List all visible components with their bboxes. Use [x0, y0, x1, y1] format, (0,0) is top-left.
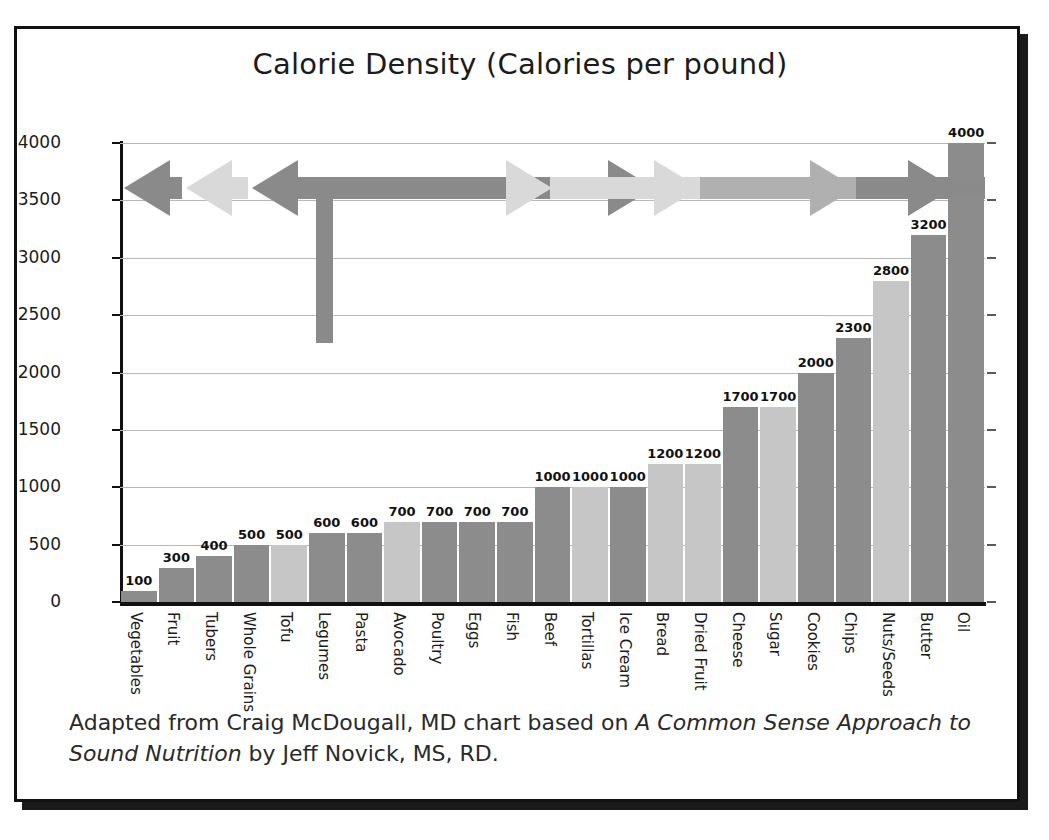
- bar[interactable]: [911, 235, 947, 602]
- x-axis-label: Tubers: [202, 612, 220, 661]
- bar-value-label: 400: [200, 538, 227, 553]
- page-title: Calorie Density (Calories per pound): [17, 47, 1023, 81]
- x-axis-label: Nuts/Seeds: [879, 612, 897, 697]
- x-axis-line: [120, 602, 986, 606]
- y-tick-label: 1500: [1, 419, 61, 439]
- bar[interactable]: [196, 556, 232, 602]
- x-axis-label: Fruit: [164, 612, 182, 645]
- bar[interactable]: [572, 487, 608, 602]
- y-tick-mark-right: [987, 486, 996, 488]
- y-tick-mark-right: [987, 601, 996, 603]
- y-tick-label: 2000: [1, 362, 61, 382]
- y-tick-mark-right: [987, 142, 996, 144]
- bar[interactable]: [271, 545, 307, 602]
- x-axis-label: Pasta: [352, 612, 370, 652]
- bar-slot: 500: [270, 143, 308, 602]
- x-axis-label: Cookies: [804, 612, 822, 671]
- bar[interactable]: [121, 591, 157, 602]
- bar-slot: 3200: [910, 143, 948, 602]
- bar[interactable]: [836, 338, 872, 602]
- bar-value-label: 2300: [835, 320, 871, 335]
- x-axis-label: Tortillas: [578, 612, 596, 669]
- bar[interactable]: [384, 522, 420, 602]
- bar-slot: 700: [421, 143, 459, 602]
- bar[interactable]: [422, 522, 458, 602]
- bar[interactable]: [648, 464, 684, 602]
- x-axis-label: Poultry: [428, 612, 446, 664]
- bar[interactable]: [497, 522, 533, 602]
- bar-slot: 1200: [684, 143, 722, 602]
- y-tick-label: 3000: [1, 247, 61, 267]
- bar[interactable]: [873, 281, 909, 602]
- bar-value-label: 1000: [534, 469, 570, 484]
- bar-slot: 700: [383, 143, 421, 602]
- bar-value-label: 600: [313, 515, 340, 530]
- x-axis-label: Vegetables: [127, 612, 145, 695]
- x-axis-label: Butter: [917, 612, 935, 659]
- bar-value-label: 1700: [760, 389, 796, 404]
- x-axis-label: Eggs: [465, 612, 483, 648]
- bar[interactable]: [234, 545, 270, 602]
- x-axis-label: Fish: [503, 612, 521, 641]
- y-tick-label: 500: [1, 534, 61, 554]
- bar-value-label: 500: [276, 527, 303, 542]
- bar-slot: 1700: [759, 143, 797, 602]
- y-tick-mark-right: [987, 257, 996, 259]
- bar-slot: 4000: [947, 143, 985, 602]
- bar-slot: 700: [496, 143, 534, 602]
- x-axis-label: Legumes: [315, 612, 333, 680]
- plot-inner: 1003004005005006006007007007007001000100…: [120, 143, 985, 602]
- y-tick-mark-right: [987, 544, 996, 546]
- bar[interactable]: [159, 568, 195, 602]
- bar[interactable]: [948, 143, 984, 602]
- bar[interactable]: [723, 407, 759, 602]
- bar[interactable]: [347, 533, 383, 602]
- bar-value-label: 2800: [873, 263, 909, 278]
- y-tick-label: 1000: [1, 476, 61, 496]
- y-tick-mark-right: [987, 199, 996, 201]
- bar-slot: 1000: [534, 143, 572, 602]
- chart-plot-area: 05001000150020002500300035004000 1003004…: [106, 117, 986, 602]
- bar-value-label: 1000: [572, 469, 608, 484]
- bar-value-label: 600: [351, 515, 378, 530]
- bar-value-label: 700: [426, 504, 453, 519]
- poster-frame: Calorie Density (Calories per pound) 050…: [14, 26, 1020, 802]
- x-axis-label: Whole Grains: [240, 612, 258, 712]
- bar-slot: 2000: [797, 143, 835, 602]
- bar-slot: 400: [195, 143, 233, 602]
- x-axis-label: Bread: [653, 612, 671, 656]
- x-axis-label: Dried Fruit: [691, 612, 709, 691]
- source-caption: Adapted from Craig McDougall, MD chart b…: [69, 707, 974, 769]
- y-tick-mark-right: [987, 314, 996, 316]
- bar-value-label: 2000: [798, 355, 834, 370]
- bar-value-label: 3200: [910, 217, 946, 232]
- bar-slot: 1000: [609, 143, 647, 602]
- bar[interactable]: [610, 487, 646, 602]
- y-tick-label: 2500: [1, 304, 61, 324]
- caption-book-title-part2: Sound Nutrition: [69, 741, 242, 766]
- y-tick-label: 4000: [1, 132, 61, 152]
- bar[interactable]: [685, 464, 721, 602]
- bar-slot: 500: [233, 143, 271, 602]
- bar-slot: 100: [120, 143, 158, 602]
- bar-value-label: 100: [125, 573, 152, 588]
- bar-value-label: 700: [464, 504, 491, 519]
- bar[interactable]: [309, 533, 345, 602]
- x-axis-label: Avocado: [390, 612, 408, 676]
- bar-value-label: 1200: [647, 446, 683, 461]
- poster-page: Calorie Density (Calories per pound) 050…: [0, 0, 1049, 840]
- y-tick-label: 3500: [1, 189, 61, 209]
- caption-book-title-part1: A Common Sense Approach to: [635, 710, 971, 735]
- bar[interactable]: [760, 407, 796, 602]
- bar[interactable]: [798, 373, 834, 603]
- x-axis-label: Sugar: [766, 612, 784, 656]
- x-axis-label: Tofu: [277, 612, 295, 643]
- bar-value-label: 700: [388, 504, 415, 519]
- bar-slot: 2800: [872, 143, 910, 602]
- bar-series: 1003004005005006006007007007007001000100…: [120, 143, 985, 602]
- bar-value-label: 1200: [685, 446, 721, 461]
- x-axis-label: Beef: [541, 612, 559, 646]
- bar[interactable]: [459, 522, 495, 602]
- bar[interactable]: [535, 487, 571, 602]
- bar-value-label: 300: [163, 550, 190, 565]
